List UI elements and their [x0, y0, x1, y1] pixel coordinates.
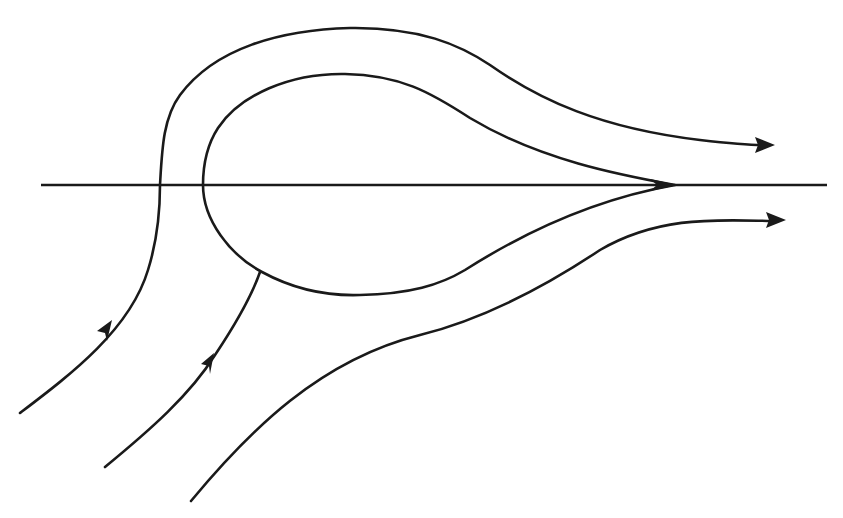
arrowhead-icon	[97, 320, 112, 341]
outer-trajectory	[20, 28, 762, 413]
arrowhead-icon	[755, 137, 775, 153]
flow-diagram	[0, 0, 843, 518]
arrowhead-icon	[766, 212, 786, 228]
lower-trajectory	[191, 220, 772, 501]
inner-incoming-trajectory	[105, 272, 260, 467]
